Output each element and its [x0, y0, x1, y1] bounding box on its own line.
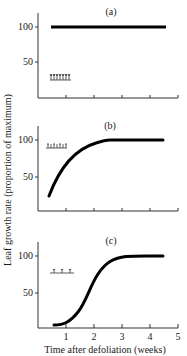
panel-b: (b) 100 50: [18, 120, 178, 211]
panel-c-curve: [54, 256, 163, 325]
panel-b-label: (b): [104, 120, 116, 132]
panel-b-ytick-50: 50: [23, 171, 33, 182]
panel-a-ytick-50: 50: [23, 56, 33, 67]
panel-c-ytick-100: 100: [18, 250, 33, 261]
full-leaves-icon: [50, 74, 71, 80]
y-axis-title: Leaf growth rate (proportion of maximum): [2, 94, 14, 266]
panel-b-ytick-100: 100: [18, 134, 33, 145]
defoliation-figure: Leaf growth rate (proportion of maximum)…: [0, 0, 187, 356]
panel-a: (a) 100 50: [18, 6, 178, 98]
panel-c-ytick-50: 50: [23, 287, 33, 298]
stripped-stems-icon: [50, 269, 74, 273]
panel-a-label: (a): [105, 6, 116, 18]
partial-leaves-icon: [46, 144, 67, 148]
panel-c-xtick-2: 2: [92, 331, 97, 342]
panel-c-xtick-1: 1: [64, 331, 69, 342]
panel-c-xtick-4: 4: [148, 331, 153, 342]
panel-c-xtick-5: 5: [176, 331, 181, 342]
panel-a-ytick-100: 100: [18, 21, 33, 32]
panel-c-xtick-3: 3: [120, 331, 125, 342]
panel-c-label: (c): [105, 235, 116, 247]
x-axis-title: Time after defoliation (weeks): [44, 344, 166, 356]
panel-c: (c) 100 50 1 2 3 4 5 Time after defoliat…: [18, 235, 181, 356]
